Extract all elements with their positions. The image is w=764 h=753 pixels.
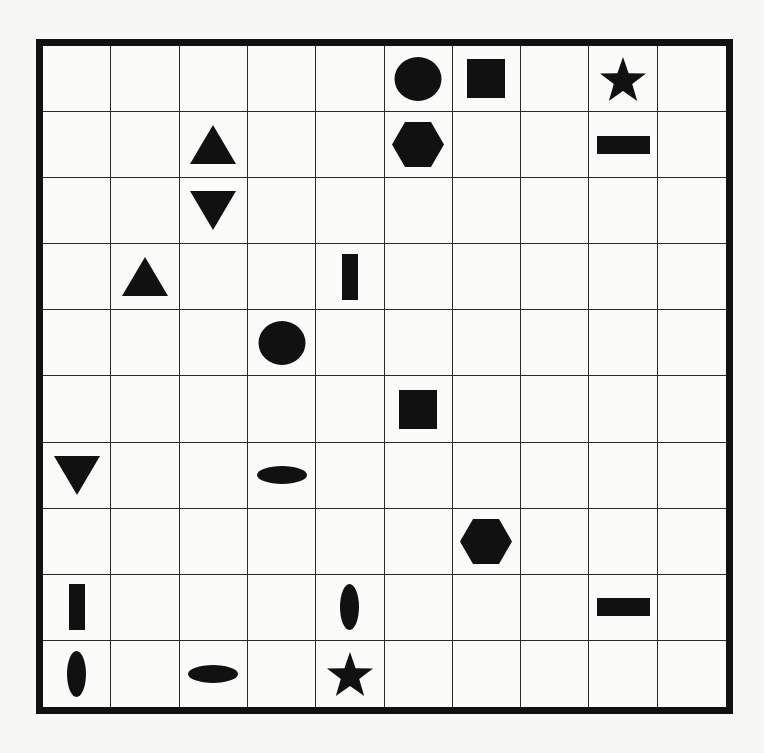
grid-cell-r6-c4[interactable] [316,443,384,509]
grid-cell-r0-c1[interactable] [111,46,179,112]
grid-cell-r5-c3[interactable] [248,376,316,442]
grid-cell-r9-c3[interactable] [248,641,316,707]
grid-cell-r3-c8[interactable] [589,244,657,310]
grid-cell-r0-c9[interactable] [658,46,726,112]
grid-cell-r5-c7[interactable] [521,376,589,442]
grid-cell-r3-c6[interactable] [453,244,521,310]
grid-cell-r8-c2[interactable] [180,575,248,641]
grid-cell-r1-c3[interactable] [248,112,316,178]
grid-cell-r3-c9[interactable] [658,244,726,310]
grid-cell-r8-c7[interactable] [521,575,589,641]
grid-cell-r3-c0[interactable] [43,244,111,310]
grid-cell-r0-c0[interactable] [43,46,111,112]
grid-cell-r7-c1[interactable] [111,509,179,575]
grid-cell-r2-c7[interactable] [521,178,589,244]
grid-cell-r6-c1[interactable] [111,443,179,509]
grid-cell-r4-c1[interactable] [111,310,179,376]
grid-cell-r7-c3[interactable] [248,509,316,575]
grid-cell-r0-c6[interactable] [453,46,521,112]
grid-cell-r3-c2[interactable] [180,244,248,310]
grid-cell-r7-c7[interactable] [521,509,589,575]
grid-cell-r4-c4[interactable] [316,310,384,376]
grid-cell-r3-c4[interactable] [316,244,384,310]
grid-cell-r9-c8[interactable] [589,641,657,707]
grid-cell-r7-c0[interactable] [43,509,111,575]
grid-cell-r4-c0[interactable] [43,310,111,376]
grid-cell-r5-c2[interactable] [180,376,248,442]
grid-cell-r4-c3[interactable] [248,310,316,376]
grid-cell-r8-c3[interactable] [248,575,316,641]
grid-cell-r0-c5[interactable] [385,46,453,112]
grid-cell-r2-c6[interactable] [453,178,521,244]
grid-cell-r1-c8[interactable] [589,112,657,178]
grid-cell-r6-c7[interactable] [521,443,589,509]
grid-cell-r9-c2[interactable] [180,641,248,707]
grid-cell-r5-c0[interactable] [43,376,111,442]
grid-cell-r4-c2[interactable] [180,310,248,376]
grid-cell-r5-c5[interactable] [385,376,453,442]
grid-cell-r2-c5[interactable] [385,178,453,244]
grid-cell-r6-c6[interactable] [453,443,521,509]
grid-cell-r8-c1[interactable] [111,575,179,641]
grid-cell-r3-c3[interactable] [248,244,316,310]
grid-cell-r0-c2[interactable] [180,46,248,112]
grid-cell-r2-c1[interactable] [111,178,179,244]
grid-cell-r7-c9[interactable] [658,509,726,575]
grid-cell-r1-c6[interactable] [453,112,521,178]
grid-cell-r1-c4[interactable] [316,112,384,178]
grid-cell-r2-c9[interactable] [658,178,726,244]
grid-cell-r3-c7[interactable] [521,244,589,310]
grid-cell-r6-c9[interactable] [658,443,726,509]
grid-cell-r4-c5[interactable] [385,310,453,376]
grid-cell-r2-c4[interactable] [316,178,384,244]
grid-cell-r5-c4[interactable] [316,376,384,442]
grid-cell-r9-c5[interactable] [385,641,453,707]
grid-cell-r4-c9[interactable] [658,310,726,376]
grid-cell-r9-c4[interactable] [316,641,384,707]
grid-cell-r0-c4[interactable] [316,46,384,112]
grid-cell-r9-c6[interactable] [453,641,521,707]
grid-cell-r2-c3[interactable] [248,178,316,244]
grid-cell-r1-c7[interactable] [521,112,589,178]
grid-cell-r3-c5[interactable] [385,244,453,310]
grid-cell-r5-c8[interactable] [589,376,657,442]
grid-cell-r6-c2[interactable] [180,443,248,509]
grid-cell-r2-c2[interactable] [180,178,248,244]
grid-cell-r8-c5[interactable] [385,575,453,641]
grid-cell-r9-c0[interactable] [43,641,111,707]
grid-cell-r2-c8[interactable] [589,178,657,244]
grid-cell-r7-c2[interactable] [180,509,248,575]
grid-cell-r4-c7[interactable] [521,310,589,376]
grid-cell-r7-c4[interactable] [316,509,384,575]
grid-cell-r5-c9[interactable] [658,376,726,442]
grid-cell-r8-c4[interactable] [316,575,384,641]
grid-cell-r9-c1[interactable] [111,641,179,707]
grid-cell-r1-c0[interactable] [43,112,111,178]
grid-cell-r9-c7[interactable] [521,641,589,707]
grid-cell-r8-c0[interactable] [43,575,111,641]
grid-cell-r3-c1[interactable] [111,244,179,310]
grid-cell-r9-c9[interactable] [658,641,726,707]
grid-cell-r6-c8[interactable] [589,443,657,509]
grid-cell-r1-c2[interactable] [180,112,248,178]
grid-cell-r1-c1[interactable] [111,112,179,178]
grid-cell-r6-c0[interactable] [43,443,111,509]
grid-cell-r0-c8[interactable] [589,46,657,112]
grid-cell-r7-c6[interactable] [453,509,521,575]
grid-cell-r1-c9[interactable] [658,112,726,178]
grid-cell-r6-c5[interactable] [385,443,453,509]
grid-cell-r4-c6[interactable] [453,310,521,376]
grid-cell-r7-c5[interactable] [385,509,453,575]
grid-cell-r8-c6[interactable] [453,575,521,641]
grid-cell-r8-c8[interactable] [589,575,657,641]
grid-cell-r5-c6[interactable] [453,376,521,442]
grid-cell-r0-c7[interactable] [521,46,589,112]
grid-cell-r0-c3[interactable] [248,46,316,112]
grid-cell-r1-c5[interactable] [385,112,453,178]
grid-cell-r7-c8[interactable] [589,509,657,575]
grid-cell-r4-c8[interactable] [589,310,657,376]
grid-cell-r8-c9[interactable] [658,575,726,641]
grid-cell-r5-c1[interactable] [111,376,179,442]
grid-cell-r6-c3[interactable] [248,443,316,509]
grid-cell-r2-c0[interactable] [43,178,111,244]
